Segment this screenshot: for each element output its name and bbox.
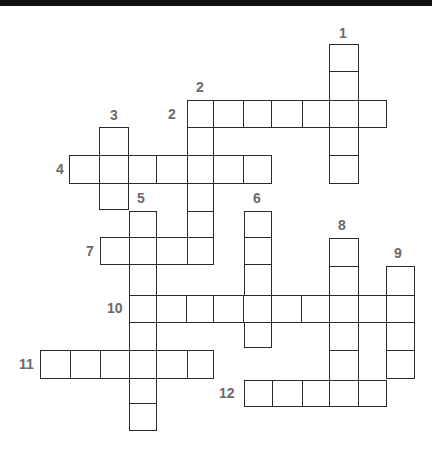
- cell-10a-3[interactable]: [186, 295, 214, 323]
- cell-2d-5[interactable]: [187, 211, 214, 238]
- cell-12a-1[interactable]: [244, 380, 273, 407]
- cell-2d-4[interactable]: [187, 183, 214, 212]
- cell-7a-3[interactable]: [156, 237, 188, 265]
- cell-10a-5[interactable]: [243, 295, 272, 323]
- cell-10a-1[interactable]: [129, 295, 157, 323]
- cell-9d-3[interactable]: [386, 322, 415, 351]
- cell-5d-3[interactable]: [129, 264, 157, 296]
- cell-2a-5[interactable]: [302, 100, 330, 128]
- clue-number-2-across: 2: [168, 107, 176, 121]
- crossword-grid: 1 2 2 3 4 5 6 7 8 9 10 11 12: [0, 0, 432, 455]
- cell-12a-2[interactable]: [272, 380, 303, 407]
- clue-number-6-down: 6: [253, 191, 261, 205]
- cell-12a-3[interactable]: [302, 380, 330, 407]
- clue-number-10-across: 10: [107, 301, 123, 315]
- cell-2a-4[interactable]: [271, 100, 303, 128]
- cell-7a-2[interactable]: [129, 237, 157, 265]
- cell-3d-3[interactable]: [99, 183, 129, 210]
- cell-6d-3[interactable]: [244, 264, 272, 296]
- cell-5d-1[interactable]: [129, 211, 157, 238]
- cell-11a-3[interactable]: [100, 350, 130, 379]
- clue-number-12-across: 12: [219, 386, 235, 400]
- clue-number-5-down: 5: [137, 191, 145, 205]
- cell-7a-4[interactable]: [187, 237, 214, 265]
- cell-10a-4[interactable]: [213, 295, 244, 323]
- cell-4a-5[interactable]: [187, 155, 214, 184]
- cell-6d-2[interactable]: [244, 237, 272, 265]
- cell-6d-5[interactable]: [244, 322, 272, 348]
- cell-11a-1[interactable]: [40, 350, 71, 379]
- cell-10a-2[interactable]: [156, 295, 187, 323]
- clue-number-11-across: 11: [19, 357, 34, 371]
- clue-number-7-across: 7: [86, 244, 94, 258]
- cell-7a-1[interactable]: [100, 237, 130, 265]
- cell-1d-2[interactable]: [329, 71, 359, 101]
- clue-number-1-down: 1: [339, 26, 347, 40]
- cell-10a-7[interactable]: [301, 295, 330, 323]
- cell-1d-4[interactable]: [329, 126, 359, 156]
- cell-11a-2[interactable]: [70, 350, 101, 379]
- cell-2a-1[interactable]: [187, 100, 214, 128]
- cell-2a-2[interactable]: [213, 100, 244, 128]
- cell-1d-5[interactable]: [329, 155, 359, 184]
- cell-4a-6[interactable]: [213, 155, 244, 184]
- cell-10a-9[interactable]: [358, 295, 387, 323]
- cell-5d-8[interactable]: [129, 403, 157, 431]
- cell-4a-4[interactable]: [156, 155, 188, 184]
- cell-12a-4[interactable]: [329, 380, 359, 407]
- cell-2a-7[interactable]: [358, 100, 387, 128]
- cell-4a-3[interactable]: [128, 155, 157, 184]
- cell-1d-1[interactable]: [329, 44, 359, 72]
- clue-number-9-down: 9: [394, 246, 402, 260]
- cell-5d-5[interactable]: [129, 322, 157, 351]
- cell-11a-5[interactable]: [156, 350, 188, 379]
- cell-11a-4[interactable]: [129, 350, 157, 379]
- cell-10a-10[interactable]: [386, 295, 415, 323]
- cell-8d-5[interactable]: [329, 350, 359, 381]
- cell-2d-2[interactable]: [187, 127, 214, 156]
- cell-4a-2[interactable]: [99, 155, 129, 184]
- cell-8d-1[interactable]: [329, 238, 359, 267]
- cell-11a-6[interactable]: [187, 350, 214, 379]
- cell-9d-4[interactable]: [386, 350, 415, 379]
- cell-12a-5[interactable]: [358, 380, 387, 407]
- cell-4a-7[interactable]: [243, 155, 272, 184]
- cell-8d-2[interactable]: [329, 266, 359, 296]
- cell-2a-3[interactable]: [243, 100, 272, 128]
- cell-5d-7[interactable]: [129, 377, 157, 404]
- cell-10a-8[interactable]: [329, 295, 359, 323]
- cell-8d-4[interactable]: [329, 322, 359, 351]
- cell-2a-6[interactable]: [329, 100, 359, 128]
- clue-number-3-down: 3: [110, 108, 118, 122]
- cell-6d-1[interactable]: [244, 211, 272, 238]
- clue-number-8-down: 8: [338, 218, 346, 232]
- clue-number-4-across: 4: [56, 162, 64, 176]
- clue-number-2-down: 2: [196, 80, 204, 94]
- cell-4a-1[interactable]: [69, 155, 100, 184]
- cell-3d-1[interactable]: [99, 127, 129, 156]
- cell-10a-6[interactable]: [271, 295, 302, 323]
- cell-9d-1[interactable]: [386, 266, 415, 296]
